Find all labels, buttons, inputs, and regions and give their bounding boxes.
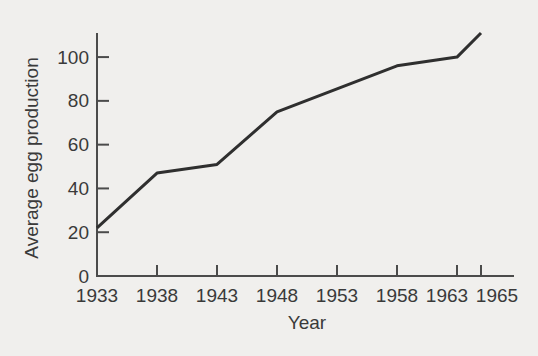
y-tick-label: 20	[68, 222, 89, 243]
x-tick-label: 1965	[476, 285, 518, 306]
y-tick-label: 40	[68, 178, 89, 199]
y-tick-label: 80	[68, 90, 89, 111]
x-tick-label: 1963	[426, 285, 468, 306]
data-line	[97, 33, 481, 228]
y-tick-label: 60	[68, 134, 89, 155]
x-tick-label: 1958	[376, 285, 418, 306]
y-tick-label: 0	[78, 266, 89, 287]
y-axis-title: Average egg production	[21, 57, 42, 258]
axis-lines	[97, 33, 514, 276]
x-tick-label: 1933	[76, 285, 118, 306]
egg-production-figure: 0204060801001933193819431948195319581963…	[0, 0, 538, 356]
line-chart: 0204060801001933193819431948195319581963…	[0, 0, 538, 356]
x-tick-label: 1943	[196, 285, 238, 306]
x-tick-label: 1948	[256, 285, 298, 306]
x-axis-title: Year	[288, 312, 327, 333]
x-tick-label: 1953	[316, 285, 358, 306]
y-tick-label: 100	[57, 47, 89, 68]
x-tick-label: 1938	[136, 285, 178, 306]
